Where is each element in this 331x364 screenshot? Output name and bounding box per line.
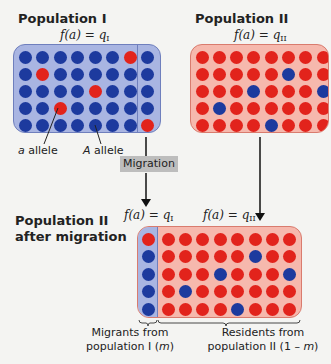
a-allele-dot — [196, 250, 209, 263]
A-allele-dot — [317, 85, 329, 98]
a-allele-dot — [54, 102, 67, 115]
a-allele-dot — [162, 250, 175, 263]
formula-subscript: II — [249, 214, 255, 223]
a-allele-dot — [36, 68, 49, 81]
A-allele-dot — [19, 51, 32, 64]
A-allele-dot — [19, 119, 32, 132]
a-allele-label: a allele — [18, 144, 58, 157]
a-allele-dot — [214, 233, 227, 246]
population-2-title: Population II — [195, 11, 288, 26]
a-allele-dot — [317, 119, 329, 132]
a-allele-dot — [247, 51, 260, 64]
population-2-after-title-line2: after migration — [15, 229, 127, 244]
A-allele-dot — [54, 68, 67, 81]
a-allele-dot — [89, 85, 102, 98]
A-allele-dot — [36, 85, 49, 98]
a-allele-dot — [265, 85, 278, 98]
A-allele-dot — [106, 51, 119, 64]
formula-subscript: I — [170, 214, 173, 223]
a-allele-dot — [196, 233, 209, 246]
migrants-caption-line2: population I (m) — [80, 340, 180, 354]
migrant-formula: f(a) = qI — [124, 208, 174, 226]
A-allele-dot — [247, 85, 260, 98]
a-allele-dot — [249, 285, 262, 298]
migration-arrowhead-icon — [141, 199, 151, 207]
a-allele-dot — [230, 85, 243, 98]
a-allele-dot — [282, 102, 295, 115]
A-allele-dot — [124, 102, 137, 115]
a-allele-text: allele — [25, 144, 58, 157]
a-allele-dot — [179, 233, 192, 246]
a-allele-dot — [162, 233, 175, 246]
a-allele-dot — [230, 51, 243, 64]
a-allele-dot — [299, 85, 312, 98]
a-allele-dot — [283, 285, 296, 298]
A-allele-dot — [89, 102, 102, 115]
residents-caption-line2: population II (1 – m) — [198, 340, 328, 354]
a-allele-dot — [214, 250, 227, 263]
A-allele-dot — [141, 102, 154, 115]
A-allele-dot — [141, 51, 154, 64]
a-allele-dot — [196, 102, 209, 115]
A-allele-dot — [54, 85, 67, 98]
a-allele-dot — [230, 102, 243, 115]
a-allele-dot — [231, 285, 244, 298]
a-allele-dot — [266, 250, 279, 263]
A-allele-dot — [213, 102, 226, 115]
a-allele-dot — [282, 119, 295, 132]
a-allele-dot — [196, 285, 209, 298]
a-allele-dot — [162, 268, 175, 281]
A-allele-dot — [71, 68, 84, 81]
a-allele-dot — [266, 268, 279, 281]
a-allele-dot — [213, 51, 226, 64]
a-allele-dot — [231, 250, 244, 263]
A-allele-dot — [142, 303, 155, 316]
A-allele-dot — [54, 119, 67, 132]
A-allele-dot — [19, 85, 32, 98]
caption-text: ) — [314, 340, 318, 353]
a-allele-dot — [282, 51, 295, 64]
a-allele-dot — [299, 119, 312, 132]
a-allele-dot — [283, 233, 296, 246]
A-allele-dot — [142, 250, 155, 263]
a-allele-dot — [214, 303, 227, 316]
a-allele-dot — [265, 68, 278, 81]
population-2-after-title-line1: Population II — [15, 213, 108, 228]
a-allele-dot — [299, 68, 312, 81]
a-allele-dot — [247, 102, 260, 115]
A-allele-dot — [231, 303, 244, 316]
a-allele-dot — [299, 51, 312, 64]
formula-text: f(a) = q — [234, 28, 280, 42]
a-allele-dot — [162, 285, 175, 298]
a-allele-dot — [213, 68, 226, 81]
A-allele-label: A allele — [83, 144, 123, 157]
caption-m: m — [159, 340, 170, 353]
A-allele-dot — [71, 119, 84, 132]
a-allele-dot — [266, 303, 279, 316]
a-allele-dot — [179, 250, 192, 263]
A-allele-dot — [282, 68, 295, 81]
caption-m: m — [303, 340, 314, 353]
a-allele-dot — [196, 119, 209, 132]
a-allele-dot — [124, 51, 137, 64]
a-allele-dot — [196, 268, 209, 281]
a-allele-dot — [247, 68, 260, 81]
a-allele-dot — [231, 268, 244, 281]
A-allele-dot — [36, 51, 49, 64]
residents-caption-line1: Residents from — [198, 326, 328, 340]
population-2-box — [190, 44, 329, 133]
residents-caption: Residents from population II (1 – m) — [198, 326, 328, 354]
A-allele-text: allele — [91, 144, 124, 157]
A-allele-dot — [106, 68, 119, 81]
formula-subscript: II — [280, 34, 286, 43]
A-allele-dot — [265, 119, 278, 132]
formula-subscript: I — [106, 34, 109, 43]
A-allele-dot — [214, 268, 227, 281]
formula-text: f(a) = q — [124, 208, 170, 222]
A-allele-dot — [141, 68, 154, 81]
A-allele-dot — [89, 119, 102, 132]
A-allele-dot — [283, 268, 296, 281]
A-allele-dot — [249, 250, 262, 263]
caption-text: ) — [170, 340, 174, 353]
a-allele-dot — [249, 233, 262, 246]
